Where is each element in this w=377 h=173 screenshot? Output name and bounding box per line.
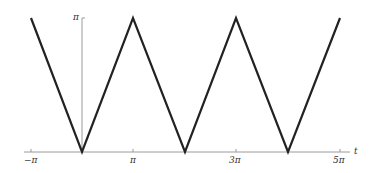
x-label-5pi: 5π: [333, 155, 345, 165]
x-label-3pi: 3π: [229, 155, 241, 165]
x-label-neg-pi: −π: [24, 155, 37, 165]
x-axis-label-t: t: [354, 146, 358, 156]
y-label-pi: π: [73, 12, 79, 22]
triangle-wave-chart: [0, 0, 377, 173]
x-label-pi: π: [130, 155, 136, 165]
triangle-wave-line: [31, 18, 340, 152]
